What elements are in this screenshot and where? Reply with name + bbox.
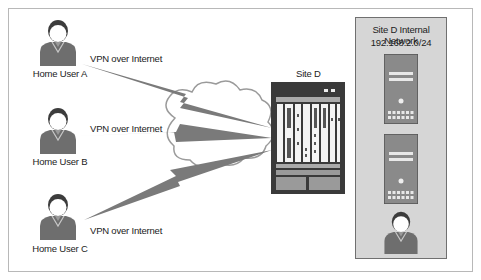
- vpn-link-c-label: VPN over Internet: [90, 225, 162, 236]
- internal-network-panel: Site D Internal Network 192.168.2.0/24: [355, 17, 447, 259]
- site-d-router-icon: [271, 82, 345, 194]
- server-2-icon: [384, 134, 418, 204]
- home-user-b-icon: [40, 108, 76, 154]
- vpn-link-a-label: VPN over Internet: [90, 53, 162, 64]
- server-1-icon: [384, 54, 418, 124]
- vpn-link-c-icon: [84, 150, 272, 220]
- home-user-b-label: Home User B: [25, 156, 95, 167]
- internal-user-icon: [382, 208, 420, 254]
- home-user-a-icon: [40, 20, 76, 66]
- home-user-c-icon: [40, 194, 76, 240]
- internal-network-subnet: 192.168.2.0/24: [356, 37, 446, 48]
- vpn-link-b-label: VPN over Internet: [90, 123, 162, 134]
- home-user-c-label: Home User C: [25, 243, 95, 254]
- site-d-label: Site D: [296, 68, 321, 79]
- home-user-a-label: Home User A: [25, 68, 95, 79]
